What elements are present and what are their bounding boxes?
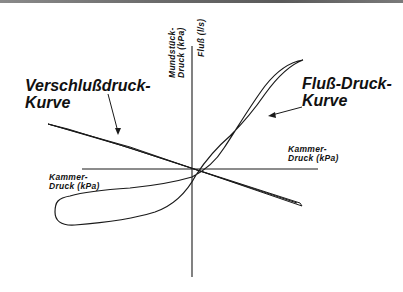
y-axis-mouthpiece-pressure-label: Mundstück- Druck (kPa): [168, 27, 187, 78]
x-axis-right-label: Kammer- Druck (kPa): [288, 145, 339, 163]
y-axis-flow-label: Fluß (l/s): [197, 19, 206, 57]
occlusion-pressure-curve: [48, 124, 302, 206]
x-axis-right-line2: Druck (kPa): [288, 154, 339, 163]
flow-curve-label-line2: Kurve: [302, 93, 392, 110]
flow-curve-pointer: [268, 107, 302, 118]
y-axis-flow-text: Fluß (l/s): [197, 19, 206, 57]
occlusion-curve-label-line1: Verschlußdruck-: [25, 78, 151, 95]
occlusion-curve-label: Verschlußdruck- Kurve: [25, 78, 151, 112]
x-axis-left-line2: Druck (kPa): [49, 182, 100, 191]
y-axis-mouthpiece-line2: Druck (kPa): [177, 27, 186, 78]
flow-curve-label: Fluß-Druck- Kurve: [302, 76, 392, 110]
occlusion-curve-label-line2: Kurve: [25, 95, 151, 112]
flow-curve-label-line1: Fluß-Druck-: [302, 76, 392, 93]
x-axis-left-label: Kammer- Druck (kPa): [49, 173, 100, 191]
